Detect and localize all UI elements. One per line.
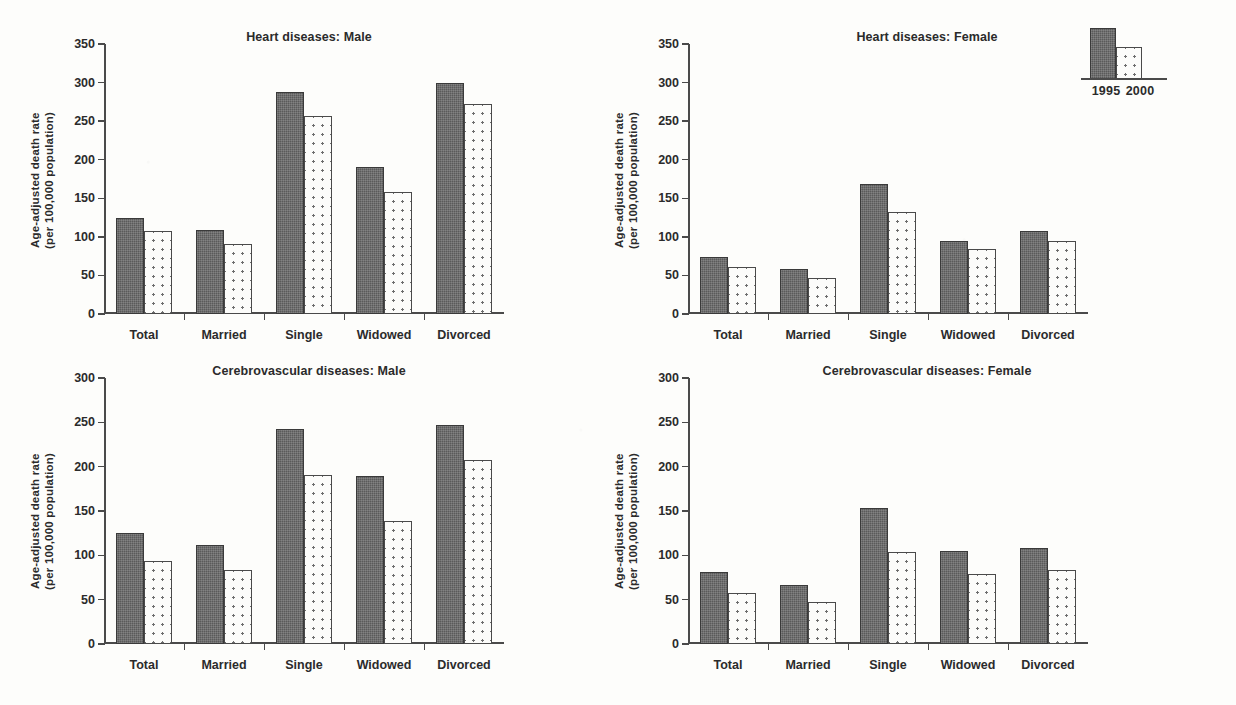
legend: 1995 2000: [1090, 28, 1158, 98]
bar-2000: [968, 574, 996, 644]
x-axis-category-label: Widowed: [357, 328, 412, 342]
x-axis-category-label: Single: [285, 328, 323, 342]
bar-group: [356, 476, 412, 644]
x-axis-tick: [768, 314, 769, 320]
x-axis-tick: [848, 644, 849, 650]
y-axis-tick-label: 100: [658, 548, 679, 562]
bar-group: [940, 551, 996, 644]
y-axis-tick: [98, 555, 105, 556]
y-axis-tick-label: 250: [658, 114, 679, 128]
y-axis-tick-label: 250: [74, 415, 95, 429]
y-axis-tick: [682, 82, 689, 83]
bar-group: [356, 167, 412, 314]
y-axis-tick: [98, 120, 105, 121]
y-axis-tick: [682, 599, 689, 600]
y-axis-label: Age-adjusted death rate (per 100,000 pop…: [28, 88, 57, 273]
plot-area: 050100150200250300: [688, 378, 1088, 644]
y-axis-tick-label: 150: [74, 504, 95, 518]
plot-area: 050100150200250300350: [104, 44, 504, 314]
y-axis-tick: [682, 313, 689, 314]
bar-2000: [888, 552, 916, 644]
x-axis-tick: [344, 314, 345, 320]
y-axis-tick-label: 150: [658, 504, 679, 518]
y-axis-tick-label: 250: [658, 415, 679, 429]
y-axis-tick: [682, 236, 689, 237]
bar-2000: [968, 249, 996, 314]
y-axis-tick-label: 200: [74, 460, 95, 474]
bar-1995: [276, 92, 304, 314]
legend-baseline: [1081, 78, 1167, 80]
x-axis-category-label: Divorced: [1021, 328, 1075, 342]
bar-1995: [700, 572, 728, 644]
legend-label-2000: 2000: [1122, 84, 1158, 98]
bar-group: [780, 585, 836, 644]
x-axis-category-label: Total: [714, 658, 743, 672]
bar-1995: [356, 476, 384, 644]
bar-1995: [780, 585, 808, 644]
x-axis-tick: [928, 314, 929, 320]
bar-1995: [276, 429, 304, 644]
y-axis-tick-label: 300: [658, 76, 679, 90]
y-axis-tick: [682, 120, 689, 121]
y-axis-tick-label: 200: [658, 153, 679, 167]
bar-2000: [1048, 241, 1076, 314]
y-axis-tick-label: 0: [88, 307, 95, 321]
x-axis-tick: [424, 314, 425, 320]
bar-1995: [116, 218, 144, 314]
y-axis-tick-label: 200: [658, 460, 679, 474]
bar-2000: [728, 593, 756, 644]
chart-panel-cerebro-female: Cerebrovascular diseases: Female Age-adj…: [618, 352, 1236, 705]
y-axis-label: Age-adjusted death rate (per 100,000 pop…: [28, 429, 57, 614]
x-axis-tick: [184, 644, 185, 650]
y-axis-tick-label: 50: [665, 268, 679, 282]
y-axis-tick-label: 200: [74, 153, 95, 167]
x-axis-tick: [1008, 314, 1009, 320]
y-axis-tick: [98, 466, 105, 467]
bar-2000: [144, 561, 172, 644]
y-axis-label-line1: Age-adjusted death rate: [28, 429, 42, 614]
x-axis-category-label: Single: [869, 328, 907, 342]
y-axis-tick-label: 0: [672, 307, 679, 321]
bar-2000: [304, 116, 332, 314]
bar-group: [196, 230, 252, 314]
bar-2000: [224, 244, 252, 314]
y-axis-tick-label: 50: [81, 268, 95, 282]
x-axis-category-label: Divorced: [437, 658, 491, 672]
x-axis-tick: [928, 644, 929, 650]
bar-1995: [940, 551, 968, 644]
y-axis-tick: [682, 422, 689, 423]
y-axis-tick: [98, 198, 105, 199]
bar-1995: [436, 425, 464, 644]
y-axis-tick: [682, 275, 689, 276]
bar-group: [116, 218, 172, 314]
legend-swatch-2000: [1116, 47, 1142, 80]
y-axis-line: [688, 44, 690, 314]
x-axis-category-label: Single: [285, 658, 323, 672]
bar-group: [1020, 548, 1076, 644]
legend-swatches: [1090, 28, 1158, 80]
y-axis-tick-label: 50: [81, 593, 95, 607]
bar-group: [276, 92, 332, 314]
bar-group: [860, 184, 916, 314]
chart-panel-cerebro-male: Cerebrovascular diseases: Male Age-adjus…: [0, 352, 618, 705]
chart-panel-heart-male: Heart diseases: Male Age-adjusted death …: [0, 0, 618, 352]
y-axis-tick-label: 300: [74, 371, 95, 385]
y-axis-tick-label: 100: [658, 230, 679, 244]
y-axis-tick-label: 300: [658, 371, 679, 385]
plot-area: 050100150200250300: [104, 378, 504, 644]
y-axis-tick: [98, 599, 105, 600]
y-axis-tick: [682, 643, 689, 644]
chart-panel-heart-female: Heart diseases: Female Age-adjusted deat…: [618, 0, 1236, 352]
y-axis-tick-label: 100: [74, 548, 95, 562]
y-axis-tick-label: 50: [665, 593, 679, 607]
bar-1995: [940, 241, 968, 314]
x-axis-tick: [184, 314, 185, 320]
bar-2000: [808, 278, 836, 314]
y-axis-tick-label: 0: [672, 637, 679, 651]
x-axis-category-label: Total: [130, 658, 159, 672]
legend-label-1995: 1995: [1090, 84, 1122, 98]
bar-group: [700, 572, 756, 644]
y-axis-label-line2: (per 100,000 population): [626, 88, 640, 273]
y-axis-tick: [98, 643, 105, 644]
y-axis-label-line2: (per 100,000 population): [42, 429, 56, 614]
